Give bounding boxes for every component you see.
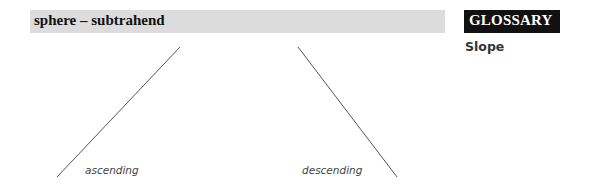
slope-diagram	[0, 0, 594, 190]
descending-line	[298, 47, 397, 177]
ascending-line	[57, 47, 180, 177]
descending-label: descending	[302, 164, 362, 176]
ascending-label: ascending	[85, 164, 139, 176]
